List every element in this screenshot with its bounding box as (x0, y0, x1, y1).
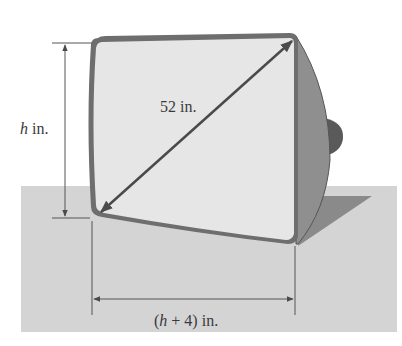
diagonal-label: 52 in. (160, 98, 196, 116)
diagram-graphic (0, 0, 402, 346)
height-unit: in. (28, 120, 48, 137)
height-variable: h (20, 120, 28, 137)
tv-screen-face (94, 38, 295, 240)
height-label: h in. (20, 120, 48, 138)
width-rest: + 4) in. (167, 312, 218, 329)
width-label: (h + 4) in. (154, 312, 218, 330)
tv-dimension-diagram: h in. 52 in. (h + 4) in. (0, 0, 402, 346)
